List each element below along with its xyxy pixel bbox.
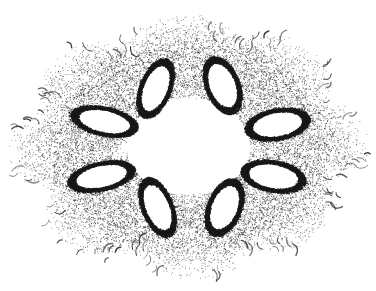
fractal-point-cloud-canvas [0,0,376,291]
fractal-figure: Siegel disk Julia set with eight-fold sy… [0,0,376,291]
